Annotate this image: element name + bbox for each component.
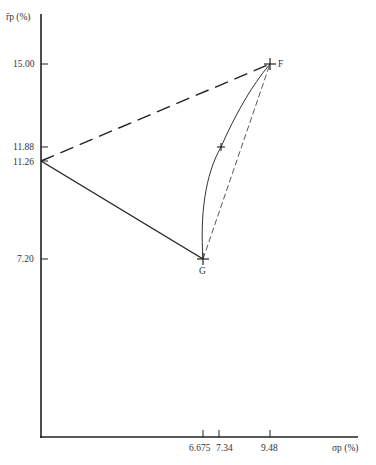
x-tick-label: 6.675 [189, 443, 211, 453]
chart: r̄p (%) 15.00 11.88 11.26 7.20 6.675 7.3… [0, 0, 376, 465]
point-mid-marker [217, 143, 225, 151]
y-tick-label: 11.88 [13, 142, 34, 152]
line-rf-to-f [41, 64, 270, 161]
x-tick-label: 7.34 [216, 443, 233, 453]
point-f-marker [264, 58, 276, 70]
x-tick-label: 9.48 [261, 443, 278, 453]
point-f-label: F [278, 59, 283, 69]
x-axis-label: σp (%) [332, 443, 359, 454]
y-axis-label: r̄p (%) [6, 12, 31, 23]
line-rf-to-g [41, 161, 203, 259]
line-g-to-f [203, 64, 270, 259]
point-g-marker [197, 253, 209, 265]
y-tick-label: 11.26 [13, 157, 34, 167]
y-tick-label: 7.20 [17, 254, 34, 264]
y-tick-label: 15.00 [13, 59, 35, 69]
point-g-label: G [199, 266, 206, 276]
